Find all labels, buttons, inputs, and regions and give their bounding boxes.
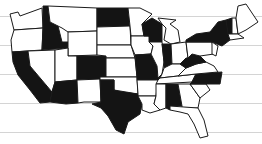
state-new-york xyxy=(186,20,230,46)
state-wyoming xyxy=(68,31,97,56)
state-arkansas xyxy=(137,80,158,96)
state-pennsylvania xyxy=(186,42,214,58)
state-south-dakota xyxy=(97,26,131,45)
state-massachusetts xyxy=(228,34,244,40)
state-kansas xyxy=(106,58,137,77)
state-new-mexico xyxy=(77,79,101,103)
state-nebraska xyxy=(97,45,135,58)
us-map xyxy=(0,0,262,144)
state-florida xyxy=(170,106,208,138)
state-mississippi xyxy=(154,84,166,110)
state-arizona xyxy=(50,80,78,104)
state-oregon xyxy=(11,28,43,52)
state-colorado xyxy=(77,56,106,80)
state-maine xyxy=(236,4,258,34)
state-north-dakota xyxy=(97,8,130,27)
state-washington xyxy=(10,8,43,30)
